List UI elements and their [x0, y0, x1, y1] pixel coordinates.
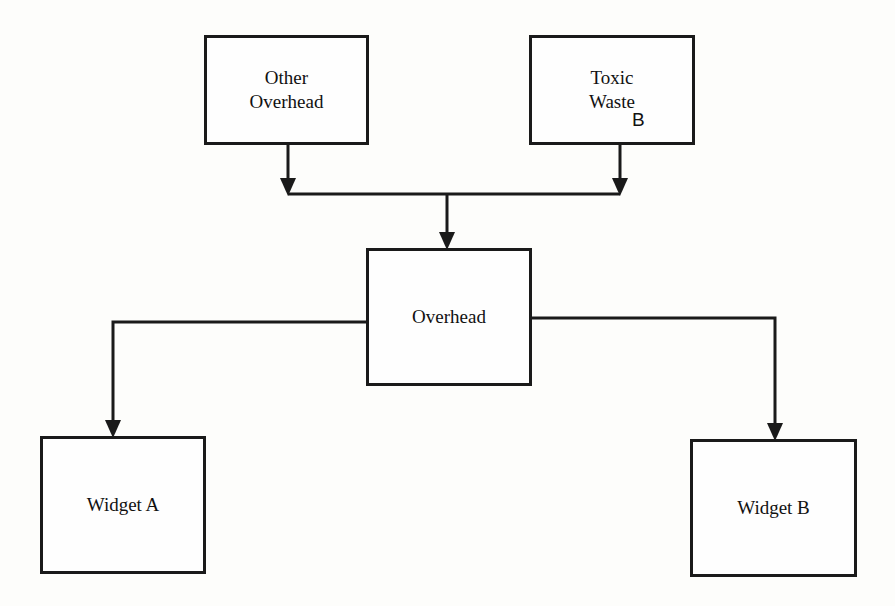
node-other-overhead: Other Overhead	[204, 35, 369, 145]
node-label-line1: Other	[250, 66, 324, 90]
node-widget-a: Widget A	[40, 436, 206, 574]
node-label: Widget B	[737, 496, 810, 520]
node-widget-b: Widget B	[690, 439, 857, 577]
node-annotation: B	[632, 108, 645, 132]
node-label-line2: Waste	[589, 90, 635, 114]
node-overhead: Overhead	[366, 248, 532, 386]
node-label-line1: Toxic	[589, 66, 635, 90]
node-toxic-waste: Toxic Waste B	[529, 35, 695, 145]
edge-to-widget-a	[113, 322, 367, 420]
node-label-line2: Overhead	[250, 90, 324, 114]
node-label: Widget A	[87, 493, 160, 517]
edge-to-widget-b	[530, 318, 775, 423]
node-label: Overhead	[412, 305, 486, 329]
